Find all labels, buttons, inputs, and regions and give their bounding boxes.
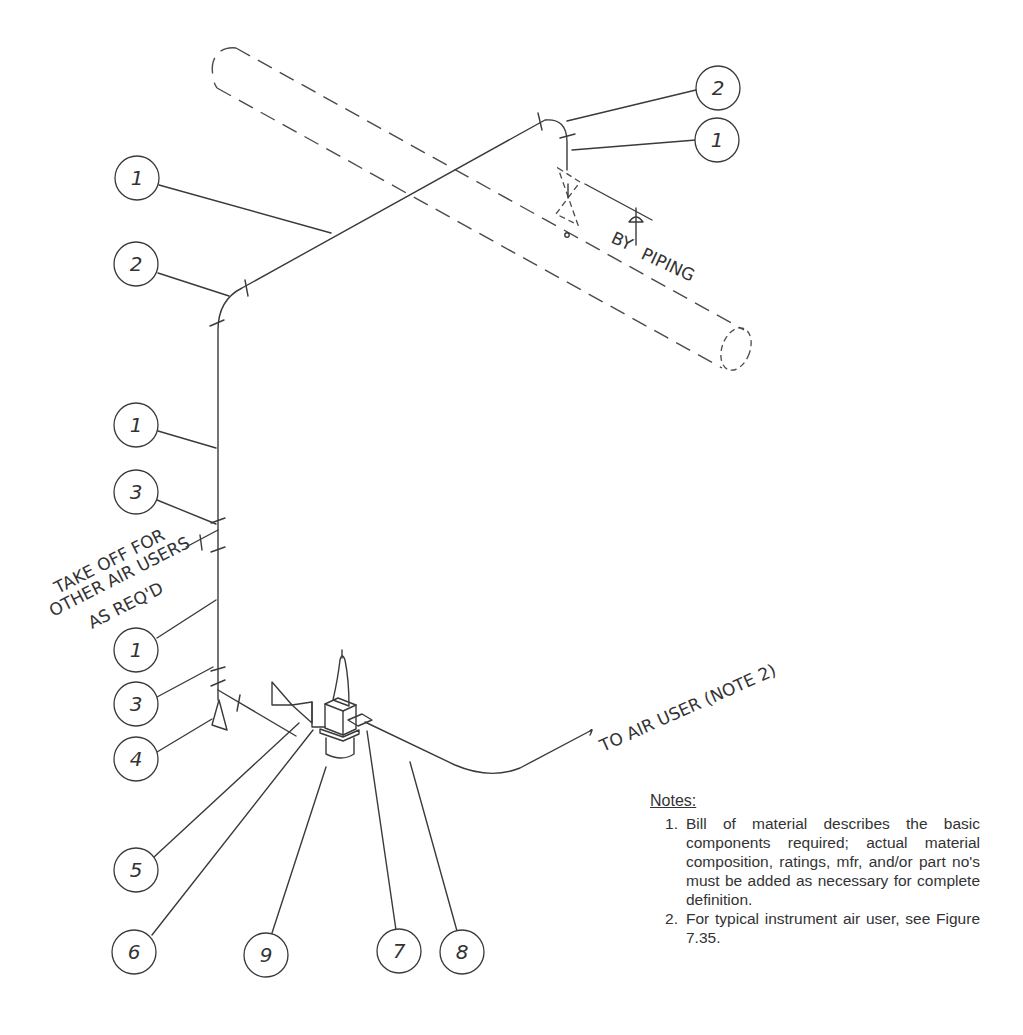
outlet-pipe-8 [365,722,592,773]
callout-bubble: 7 [377,929,421,973]
header-pipe-dashed [212,48,756,375]
note-item: 2. For typical instrument air user, see … [650,909,980,947]
callout-bubble: 1 [114,403,158,447]
callout-bubble: 1 [115,156,159,200]
callout-bubble: 5 [114,848,158,892]
callout-bubble: 1 [114,628,158,672]
leader-lines [152,90,696,935]
callout-bubble: 3 [114,470,158,514]
svg-text:1: 1 [131,166,144,190]
svg-text:1: 1 [711,128,724,152]
annotation-to-air-user: TO AIR USER (NOTE 2) [596,660,779,756]
notes-title: Notes: [650,791,980,810]
svg-text:3: 3 [130,692,143,716]
svg-text:TO AIR USER (NOTE 2): TO AIR USER (NOTE 2) [596,660,779,756]
svg-text:5: 5 [130,858,143,882]
callout-bubble: 8 [440,930,484,974]
header-valve-dashed [556,168,580,237]
annotation-take-off: TAKE OFF FOR OTHER AIR USERS AS REQ'D [46,525,193,633]
callout-bubble: 6 [112,930,156,974]
filter-regulator-9 [320,650,372,758]
callout-bubble: 2 [696,66,740,110]
svg-text:PIPING: PIPING [638,243,698,285]
main-air-pipe [186,113,575,736]
svg-text:6: 6 [128,940,141,964]
note-item: 1. Bill of material describes the basic … [650,814,980,909]
callout-bubbles: 2 1 1 2 1 3 1 3 4 5 6 9 7 8 [112,66,740,977]
svg-text:BY: BY [608,227,636,254]
svg-text:4: 4 [130,747,143,771]
svg-text:9: 9 [260,943,273,967]
note-text: Bill of material describes the basic com… [686,814,980,909]
note-number: 2. [650,909,686,947]
svg-text:7: 7 [393,939,406,963]
note-number: 1. [650,814,686,909]
svg-text:2: 2 [712,76,725,100]
annotation-by-piping: BY PIPING [608,227,698,285]
callout-bubble: 2 [114,242,158,286]
svg-text:1: 1 [130,413,143,437]
note-text: For typical instrument air user, see Fig… [686,909,980,947]
callout-bubble: 9 [244,933,288,977]
isolation-valve-5-6 [272,682,325,727]
svg-text:1: 1 [130,638,143,662]
notes-block: Notes: 1. Bill of material describes the… [650,791,980,947]
svg-text:3: 3 [130,480,143,504]
svg-text:2: 2 [130,252,143,276]
callout-bubble: 3 [114,682,158,726]
svg-text:8: 8 [456,940,469,964]
callout-bubble: 1 [695,118,739,162]
callout-bubble: 4 [114,737,158,781]
